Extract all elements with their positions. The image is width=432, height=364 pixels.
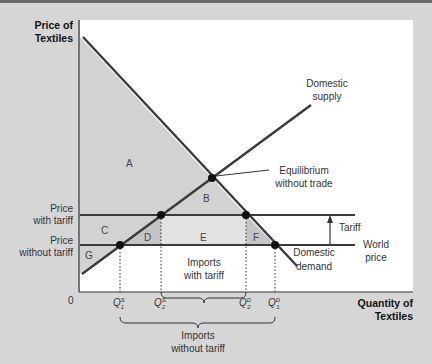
q2s-label: QS2 (154, 297, 166, 310)
supply-label-2: supply (313, 91, 342, 102)
svg-text:with tariff: with tariff (32, 215, 73, 226)
price-with-tariff-label-1: Price (50, 203, 73, 214)
demand-label-1: Domestic (293, 247, 335, 258)
svg-text:Equilibrium: Equilibrium (279, 165, 328, 176)
svg-text:Imports: Imports (187, 257, 220, 268)
svg-text:Price of: Price of (34, 19, 73, 31)
equilibrium-label-1: Equilibrium (279, 165, 328, 176)
svg-text:with tariff: with tariff (183, 270, 224, 281)
svg-text:Imports: Imports (181, 330, 214, 341)
svg-text:supply: supply (313, 91, 342, 102)
imports-without-tariff-label-1: Imports (181, 330, 214, 341)
world-price-label-1: World (363, 239, 389, 250)
tariff-label: Tariff (339, 222, 361, 233)
price-without-tariff-label-1: Price (50, 235, 73, 246)
x-axis-title-line1: Quantity of (358, 297, 414, 309)
tariff-diagram: Price of Textiles Quantity of Textiles 0… (0, 0, 432, 364)
svg-text:Domestic: Domestic (293, 247, 335, 258)
svg-text:World: World (363, 239, 389, 250)
region-g-label: G (85, 250, 93, 261)
svg-text:demand: demand (296, 261, 332, 272)
origin-label: 0 (68, 295, 74, 306)
svg-text:Price: Price (50, 235, 73, 246)
equilibrium-label-2: without trade (274, 178, 333, 189)
bracket-imports-with-tariff (161, 292, 246, 303)
svg-text:Price: Price (50, 203, 73, 214)
imports-without-tariff-label-2: without tariff (170, 343, 225, 354)
region-d-label: D (144, 232, 151, 243)
x-axis-title-line2: Textiles (375, 310, 413, 322)
imports-with-tariff-label-2: with tariff (183, 270, 224, 281)
q1s-label: QS1 (113, 297, 125, 310)
bracket-imports-without-tariff (120, 317, 275, 328)
svg-text:without trade: without trade (274, 178, 333, 189)
world-price-label-2: price (365, 252, 387, 263)
svg-text:Quantity of: Quantity of (358, 297, 414, 309)
svg-text:without tariff: without tariff (18, 247, 73, 258)
region-e-label: E (200, 232, 207, 243)
svg-text:Textiles: Textiles (35, 32, 73, 44)
region-c-label: C (101, 225, 108, 236)
supply-label-1: Domestic (306, 78, 348, 89)
equilibrium-point (208, 174, 216, 182)
region-f-label: F (253, 232, 259, 243)
y-axis-title-line2: Textiles (35, 32, 73, 44)
imports-with-tariff-label-1: Imports (187, 257, 220, 268)
price-without-tariff-label-2: without tariff (18, 247, 73, 258)
svg-text:Domestic: Domestic (306, 78, 348, 89)
q1d-label: QD1 (268, 297, 281, 310)
region-a-label: A (126, 158, 133, 169)
demand-label-2: demand (296, 261, 332, 272)
svg-text:Textiles: Textiles (375, 310, 413, 322)
svg-text:price: price (365, 252, 387, 263)
quantity-labels: QS1 QS2 QD2 QD1 (113, 297, 281, 310)
price-with-tariff-label-2: with tariff (32, 215, 73, 226)
svg-text:without tariff: without tariff (170, 343, 225, 354)
y-axis-title-line1: Price of (34, 19, 73, 31)
q2d-label: QD2 (239, 297, 252, 310)
region-b-label: B (203, 193, 210, 204)
